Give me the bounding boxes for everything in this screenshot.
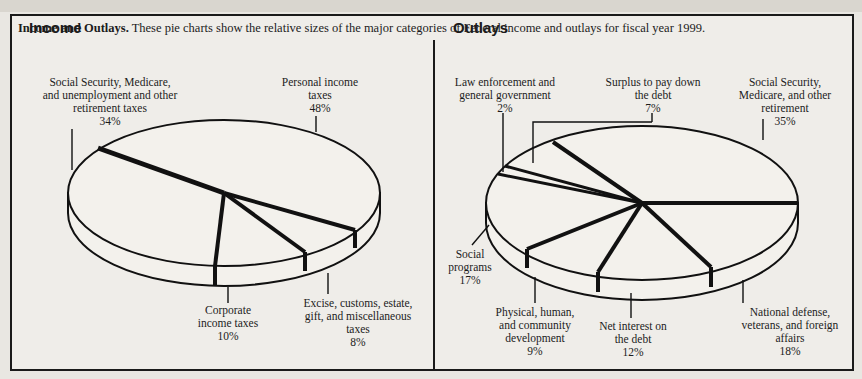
income-label-excise: Excise, customs, estate, gift, and misce… — [283, 297, 433, 349]
income-label-social-security: Social Security, Medicare, and unemploym… — [20, 76, 200, 128]
income-pie — [68, 120, 380, 286]
outlays-label-social-programs: Social programs 17% — [440, 248, 500, 287]
outlays-label-physical-human: Physical, human, and community developme… — [480, 306, 590, 358]
outlays-label-national-defense: National defense, veterans, and foreign … — [730, 306, 850, 358]
outlays-title: Outlays — [453, 19, 508, 36]
income-label-personal: Personal income taxes 48% — [260, 76, 380, 115]
outlays-label-law-enforcement: Law enforcement and general government 2… — [440, 76, 570, 115]
outlays-label-social-security: Social Security, Medicare, and other ret… — [730, 76, 840, 128]
income-label-corporate: Corporate income taxes 10% — [178, 304, 278, 343]
outlays-label-net-interest: Net interest on the debt 12% — [583, 320, 683, 359]
income-title: Income — [29, 19, 82, 36]
outlays-label-surplus: Surplus to pay down the debt 7% — [592, 76, 714, 115]
